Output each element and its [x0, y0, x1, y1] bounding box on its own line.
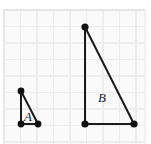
- triangle-b-label: B: [98, 90, 106, 105]
- triangle-b-vertex-top: [81, 23, 88, 30]
- triangle-a-vertex-top: [18, 88, 25, 95]
- triangle-a-vertex-bottom-right: [35, 121, 42, 128]
- similar-triangles-figure: A B: [0, 0, 151, 144]
- triangle-b-vertex-bottom-right: [130, 120, 137, 127]
- figure-canvas: A B: [0, 0, 151, 144]
- triangle-a-label: A: [23, 109, 32, 124]
- triangle-b-vertex-bottom-left: [81, 120, 88, 127]
